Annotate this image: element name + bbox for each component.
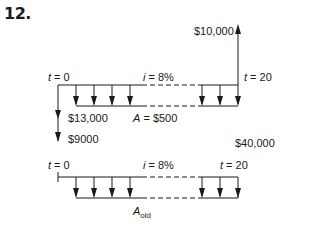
- interest-value: = 8%: [145, 159, 173, 171]
- time-label-start: t = 0: [48, 72, 70, 83]
- interest-rate-label: i = 8%: [143, 160, 174, 171]
- interest-rate-label: i = 8%: [143, 72, 174, 83]
- annuity-label: A = $500: [133, 113, 177, 124]
- time-label-end: t = 20: [220, 160, 248, 171]
- top-arrowheads: [55, 24, 241, 142]
- time-value: = 0: [51, 71, 70, 83]
- time-label-end: t = 20: [244, 72, 272, 83]
- bottom-cash-flow-diagram: [58, 172, 238, 198]
- payment-label-1: $13,000: [68, 113, 108, 124]
- time-value: = 0: [51, 159, 70, 171]
- bottom-arrowheads: [73, 188, 241, 198]
- time-label-start: t = 0: [48, 160, 70, 171]
- annuity-value: = $500: [140, 112, 177, 124]
- time-value: = 20: [247, 71, 272, 83]
- receipt-label-t20: $10,000: [194, 26, 234, 37]
- annuity-old-label: Aold: [133, 206, 151, 220]
- time-value: = 20: [223, 159, 248, 171]
- value-label: $40,000: [235, 138, 275, 149]
- top-cash-flow-diagram: [58, 28, 238, 141]
- annuity-subscript: old: [140, 211, 151, 220]
- interest-value: = 8%: [145, 71, 173, 83]
- payment-label-2: $9000: [68, 134, 99, 145]
